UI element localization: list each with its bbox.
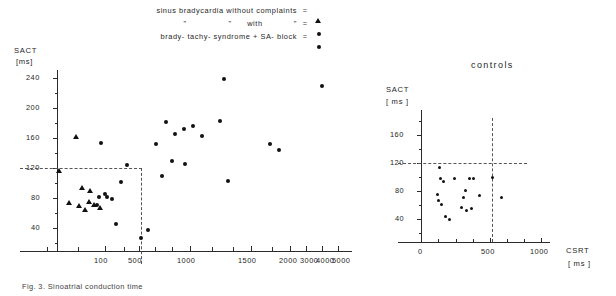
data-point-circle — [160, 174, 164, 178]
data-point-circle — [182, 127, 186, 131]
x-tick — [421, 238, 422, 243]
data-point-circle — [440, 203, 443, 206]
data-point-circle — [444, 215, 447, 218]
data-point-circle — [478, 194, 481, 197]
y-minor-tick — [419, 233, 422, 234]
data-point-circle — [200, 134, 204, 138]
x-minor-tick — [272, 247, 273, 252]
x-minor-tick — [78, 247, 79, 252]
x-minor-tick — [233, 247, 234, 252]
x-tick — [105, 246, 106, 252]
data-point-triangle — [66, 200, 72, 205]
x-minor-tick — [212, 247, 213, 252]
data-point-circle — [191, 124, 195, 128]
y-minor-tick — [55, 153, 58, 154]
data-point-circle — [119, 180, 123, 184]
y-tick — [417, 135, 422, 136]
figure-caption: Fig. 3. Sinoatrial conduction time — [22, 282, 143, 291]
y-axis-line — [57, 70, 58, 251]
data-point-circle — [460, 206, 463, 209]
data-point-triangle — [87, 188, 93, 193]
data-point-circle — [146, 228, 150, 232]
data-point-circle — [465, 209, 468, 212]
y-tick — [53, 228, 58, 229]
y-axis-label-line1: SACT — [386, 85, 409, 94]
y-minor-tick — [55, 213, 58, 214]
y-tick-label: 40 — [395, 214, 404, 223]
csrt-reference-line — [141, 168, 142, 264]
y-tick-label: 160 — [26, 133, 40, 142]
y-minor-tick — [419, 205, 422, 206]
x-tick — [338, 246, 339, 252]
x-tick-label: 1000 — [177, 256, 195, 265]
x-tick-label: 100 — [94, 256, 108, 265]
x-minor-tick — [47, 247, 48, 252]
legend-item: sinus bradycardia without complaints = — [108, 6, 323, 19]
y-axis-label-line2: [ms] — [16, 57, 33, 66]
y-minor-tick — [55, 123, 58, 124]
data-point-circle — [448, 218, 451, 221]
figure-root: sinus bradycardia without complaints = "… — [0, 0, 616, 296]
y-tick-label: 80 — [31, 193, 40, 202]
y-minor-tick — [55, 243, 58, 244]
y-minor-tick — [419, 121, 422, 122]
data-point-triangle — [56, 168, 62, 173]
x-tick — [190, 246, 191, 252]
x-tick-label: 500 — [128, 256, 142, 265]
x-axis-label-line1: CSRT — [566, 246, 589, 255]
panel-title: controls — [471, 60, 514, 70]
y-tick — [417, 219, 422, 220]
legend-equals: = — [303, 32, 307, 41]
controls-scatter-panel: controls SACT [ ms ] 40 80 120 160 0 500… — [378, 60, 616, 275]
x-minor-tick — [172, 247, 173, 252]
y-tick — [53, 198, 58, 199]
x-minor-tick — [473, 239, 474, 243]
x-tick-label: 0 — [418, 247, 423, 256]
csrt-reference-line — [492, 118, 493, 242]
legend: sinus bradycardia without complaints = "… — [108, 6, 323, 45]
data-point-circle — [453, 177, 456, 180]
legend-equals: = — [303, 19, 307, 28]
x-minor-tick — [507, 239, 508, 243]
data-point-circle — [438, 166, 441, 169]
legend-label: brady- tachy- syndrome + SA- block — [161, 32, 297, 41]
y-minor-tick — [55, 183, 58, 184]
y-tick-label: 240 — [26, 73, 40, 82]
data-point-circle — [97, 195, 101, 199]
x-tick — [541, 238, 542, 243]
x-tick — [251, 246, 252, 252]
data-point-circle — [268, 142, 272, 146]
data-point-circle — [462, 196, 465, 199]
x-tick-label: 5000 — [332, 256, 350, 265]
data-point-triangle — [82, 207, 88, 212]
data-point-circle — [105, 195, 109, 199]
legend-item: brady- tachy- syndrome + SA- block = — [108, 32, 323, 45]
y-tick-label: 200 — [26, 103, 40, 112]
x-tick-label: 500 — [481, 247, 495, 256]
y-tick — [53, 138, 58, 139]
x-tick — [322, 246, 323, 252]
x-minor-tick — [124, 247, 125, 252]
data-point-circle — [154, 142, 158, 146]
data-point-circle — [222, 77, 226, 81]
legend-item: " " with " = — [108, 19, 323, 32]
patients-scatter-panel: SACT [ms] 40 80 120 160 200 240 100 500 — [0, 46, 360, 271]
data-point-circle — [110, 197, 114, 201]
sact-reference-line — [398, 163, 527, 164]
data-point-circle — [470, 207, 473, 210]
data-point-circle — [164, 120, 168, 124]
data-point-circle — [139, 236, 143, 240]
data-point-circle — [114, 222, 118, 226]
x-tick — [139, 246, 140, 252]
y-minor-tick — [55, 93, 58, 94]
data-point-triangle — [73, 134, 79, 139]
data-point-circle — [277, 148, 281, 152]
x-tick-label: 2000 — [279, 256, 297, 265]
data-point-circle — [500, 196, 503, 199]
data-point-circle — [320, 84, 324, 88]
x-axis-label-line2: [ ms ] — [568, 259, 591, 268]
x-tick — [306, 246, 307, 252]
x-minor-tick — [438, 239, 439, 243]
x-tick — [290, 246, 291, 252]
y-tick — [417, 191, 422, 192]
